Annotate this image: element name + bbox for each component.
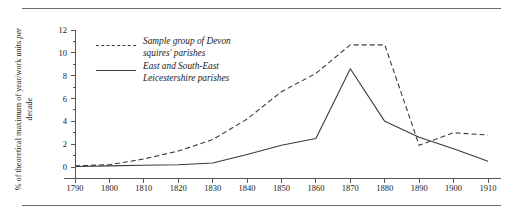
x-axis-tick-label: 1830 <box>204 183 221 193</box>
x-axis-tick-label: 1880 <box>376 183 393 193</box>
x-axis-tick-label: 1820 <box>170 183 187 193</box>
axes-group <box>64 30 501 184</box>
x-axis-tick-label: 1850 <box>273 183 290 193</box>
series-group <box>75 45 488 167</box>
y-axis-tick-label: 2 <box>47 139 67 149</box>
y-axis-tick-label: 6 <box>47 94 67 104</box>
y-axis-tick-label: 12 <box>47 25 67 35</box>
x-axis-tick-label: 1900 <box>445 183 462 193</box>
x-axis-tick-label: 1870 <box>342 183 359 193</box>
plot-area <box>0 0 523 214</box>
series-line-devon <box>75 45 488 166</box>
series-line-leicestershire <box>75 69 488 167</box>
x-axis-tick-label: 1910 <box>480 183 497 193</box>
x-axis-tick-label: 1810 <box>135 183 152 193</box>
y-axis-tick-label: 10 <box>47 48 67 58</box>
y-axis-tick-label: 8 <box>47 71 67 81</box>
x-axis-tick-label: 1800 <box>101 183 118 193</box>
x-axis-tick-label: 1790 <box>67 183 84 193</box>
x-axis-tick-label: 1860 <box>307 183 324 193</box>
figure-container: % of theoretical maximum of year/work un… <box>0 0 523 214</box>
y-axis-tick-label: 0 <box>47 162 67 172</box>
y-axis-tick-label: 4 <box>47 116 67 126</box>
x-axis-tick-label: 1890 <box>411 183 428 193</box>
x-axis-tick-label: 1840 <box>239 183 256 193</box>
